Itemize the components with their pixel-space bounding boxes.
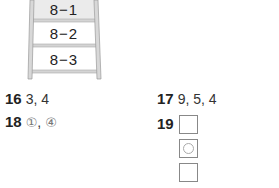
circled-one: ① [26,115,38,130]
step-2-label: 8−2 [34,25,94,42]
answer-value: 9, 5, 4 [178,91,217,107]
step-1-label: 8−1 [34,1,94,18]
circled-four: ④ [45,115,57,130]
separator: , [37,114,45,130]
ladder-diagram: 8−1 8−2 8−3 [0,0,140,85]
answer-16: 163, 4 [5,91,49,107]
answer-box-1 [179,115,198,134]
rung-2 [31,44,97,47]
right-rail [94,0,101,79]
circle-mark-icon [183,143,194,154]
step-3-label: 8−3 [34,51,94,68]
question-number: 18 [5,113,22,130]
answer-box-2 [179,139,198,158]
answer-value: 3, 4 [26,91,49,107]
answer-17: 179, 5, 4 [157,91,217,107]
answer-18: 18①, ④ [5,114,57,131]
rung-1 [32,19,96,22]
question-number: 16 [5,90,22,107]
answer-box-3 [179,163,198,182]
question-number: 17 [157,90,174,107]
rung-3 [30,70,98,73]
answer-19: 19 [157,116,178,132]
question-number: 19 [157,115,174,132]
